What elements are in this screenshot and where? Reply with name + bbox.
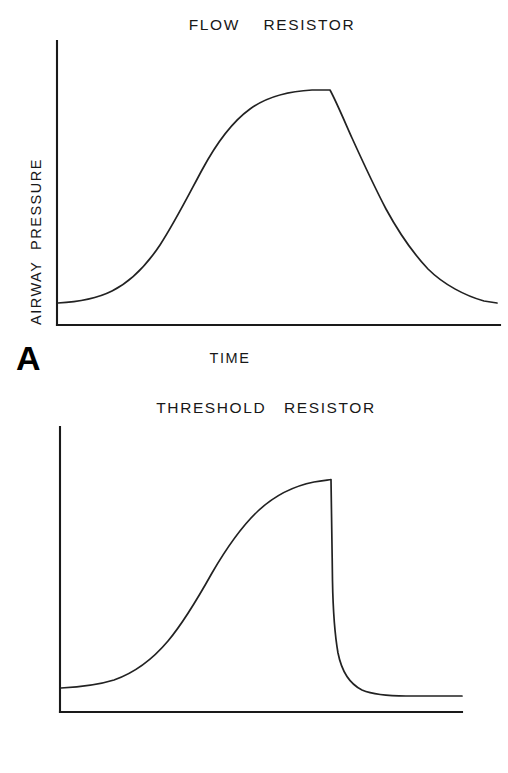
panel-b-pressure-trace	[61, 480, 462, 697]
panel-a-y-axis-label: AIRWAY PRESSURE	[28, 158, 44, 325]
panel-a-plot	[0, 0, 508, 390]
panel-a-letter: A	[16, 341, 41, 375]
figure-airway-pressure-waveforms: FLOW RESISTOR AIRWAY PRESSURE TIME A THR…	[0, 0, 508, 773]
panel-b: THRESHOLD RESISTOR TIME B	[0, 385, 508, 773]
panel-a: FLOW RESISTOR AIRWAY PRESSURE TIME A	[0, 0, 508, 390]
panel-a-x-axis-label: TIME	[0, 350, 460, 366]
panel-a-pressure-trace	[58, 90, 497, 303]
panel-b-plot	[0, 385, 508, 773]
